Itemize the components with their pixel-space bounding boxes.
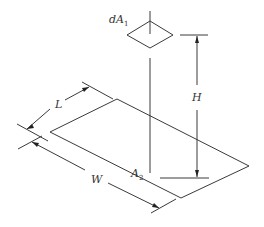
- W-dimension-line-right: [108, 183, 159, 208]
- L-top-extension-line: [82, 82, 113, 99]
- H-label: H: [191, 91, 202, 104]
- H-arrow-down-icon: [195, 170, 199, 177]
- W-dimension-line-left: [32, 142, 85, 170]
- A2-label: A2: [130, 167, 143, 182]
- dA1-label: dA1: [109, 13, 128, 28]
- length-dimension-L: L: [17, 82, 113, 141]
- differential-area-dA1: [127, 11, 173, 48]
- L-label: L: [54, 98, 62, 111]
- W-label: W: [91, 173, 104, 186]
- width-dimension-W: W: [18, 136, 176, 213]
- H-arrow-up-icon: [195, 36, 199, 43]
- height-dimension-H: H: [160, 35, 209, 178]
- L-arrow-lower-icon: [27, 124, 34, 129]
- W-left-extension-line: [18, 136, 42, 149]
- view-factor-diagram: dA1 A2 H L W: [0, 0, 264, 227]
- L-arrow-upper-icon: [82, 87, 89, 92]
- W-arrow-right-icon: [152, 203, 159, 208]
- W-arrow-left-icon: [32, 142, 39, 147]
